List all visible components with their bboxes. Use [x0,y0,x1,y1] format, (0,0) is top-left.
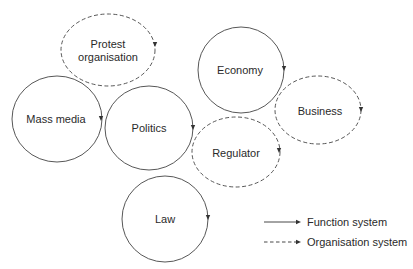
node-label-business: Business [298,105,343,118]
arrow-icon [206,215,210,220]
node-label-mass-media: Mass media [26,113,85,126]
arrow-icon [191,125,195,130]
arrow-icon [296,240,301,244]
label-line: Protest [78,38,138,51]
node-label-regulator: Regulator [212,147,260,160]
arrow-icon [99,116,103,121]
arrow-icon [359,107,363,112]
node-label-politics: Politics [132,122,167,135]
node-label-protest-organisation: Protest organisation [78,38,138,64]
arrow-icon [153,42,157,47]
node-label-law: Law [155,213,175,226]
legend-function-label: Function system [307,216,387,229]
legend-organisation-label: Organisation system [307,236,407,249]
legend-function-line [264,220,301,224]
arrow-icon [277,148,281,153]
arrow-icon [282,66,286,71]
arrow-icon [296,220,301,224]
label-line: organisation [78,51,138,64]
legend-organisation-line [264,240,301,244]
node-label-economy: Economy [217,64,263,77]
